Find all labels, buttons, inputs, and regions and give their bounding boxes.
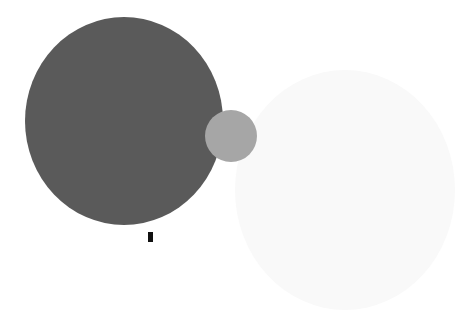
partial-text-glyph xyxy=(148,232,153,242)
faint-background-circle xyxy=(235,70,455,310)
small-gray-circle xyxy=(205,110,257,162)
large-dark-circle xyxy=(25,17,223,225)
